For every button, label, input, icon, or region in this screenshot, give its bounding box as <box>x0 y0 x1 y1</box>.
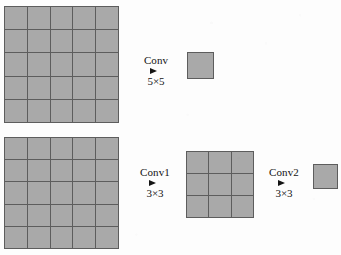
feature-map-cell <box>73 205 95 226</box>
feature-map-cell <box>51 30 73 52</box>
feature-map-cell <box>51 53 73 75</box>
feature-map-cell <box>96 138 118 159</box>
feature-map-cell <box>232 152 253 173</box>
feature-map-cell <box>51 227 73 248</box>
conv-5x5-label: Conv <box>144 55 168 67</box>
feature-map-cell <box>73 53 95 75</box>
feature-map-cell <box>73 227 95 248</box>
feature-map-cell <box>73 182 95 203</box>
conv2-3x3-arrow-group: Conv2 3×3 <box>258 167 310 200</box>
feature-map-cell <box>232 174 253 195</box>
feature-map-cell <box>96 205 118 226</box>
feature-map-cell <box>96 160 118 181</box>
bottom-input-feature-map <box>4 137 119 249</box>
feature-map-cell <box>232 196 253 217</box>
feature-map-cell <box>28 205 50 226</box>
feature-map-cell <box>5 77 27 99</box>
feature-map-cell <box>28 160 50 181</box>
conv1-3x3-arrow-group: Conv1 3×3 <box>128 167 182 200</box>
feature-map-cell <box>96 227 118 248</box>
feature-map-cell <box>5 30 27 52</box>
feature-map-cell <box>51 205 73 226</box>
feature-map-cell <box>5 182 27 203</box>
feature-map-cell <box>5 100 27 122</box>
feature-map-cell <box>28 7 50 29</box>
conv1-kernel-label: 3×3 <box>146 188 163 200</box>
feature-map-cell <box>73 30 95 52</box>
feature-map-cell <box>51 182 73 203</box>
feature-map-cell <box>209 196 230 217</box>
conv2-kernel-label: 3×3 <box>275 188 292 200</box>
feature-map-cell <box>187 196 208 217</box>
conv-5x5-kernel-label: 5×5 <box>147 76 164 88</box>
feature-map-cell <box>28 77 50 99</box>
feature-map-cell <box>96 7 118 29</box>
bottom-output-feature-map <box>313 164 338 189</box>
feature-map-cell <box>73 100 95 122</box>
feature-map-cell <box>96 182 118 203</box>
feature-map-cell <box>5 205 27 226</box>
feature-map-cell <box>73 77 95 99</box>
feature-map-cell <box>28 227 50 248</box>
feature-map-cell <box>5 138 27 159</box>
feature-map-cell <box>96 30 118 52</box>
conv1-label: Conv1 <box>140 167 170 179</box>
feature-map-cell <box>209 152 230 173</box>
feature-map-cell <box>28 182 50 203</box>
feature-map-cell <box>28 30 50 52</box>
feature-map-cell <box>28 138 50 159</box>
convolution-receptive-field-diagram: Conv 5×5 Conv1 <box>0 0 341 255</box>
feature-map-cell <box>73 7 95 29</box>
feature-map-cell <box>187 174 208 195</box>
feature-map-cell <box>5 160 27 181</box>
feature-map-cell <box>96 100 118 122</box>
conv-5x5-arrow-group: Conv 5×5 <box>128 55 184 88</box>
feature-map-cell <box>73 138 95 159</box>
feature-map-cell <box>51 138 73 159</box>
feature-map-cell <box>209 174 230 195</box>
feature-map-cell <box>51 77 73 99</box>
feature-map-cell <box>28 100 50 122</box>
feature-map-cell <box>5 53 27 75</box>
top-input-feature-map <box>4 6 119 123</box>
feature-map-cell <box>187 152 208 173</box>
feature-map-cell <box>51 7 73 29</box>
conv2-label: Conv2 <box>269 167 299 179</box>
feature-map-cell <box>28 53 50 75</box>
feature-map-cell <box>51 100 73 122</box>
feature-map-cell <box>73 160 95 181</box>
feature-map-cell <box>5 227 27 248</box>
bottom-intermediate-feature-map <box>186 151 254 218</box>
top-output-feature-map <box>187 52 214 79</box>
feature-map-cell <box>5 7 27 29</box>
feature-map-cell <box>96 53 118 75</box>
feature-map-cell <box>51 160 73 181</box>
feature-map-cell <box>96 77 118 99</box>
